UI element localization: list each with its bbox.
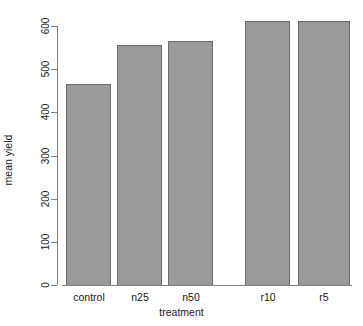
y-axis-tick-label-500: 500 xyxy=(40,54,52,84)
bar-chart-figure: 0 100 200 300 400 500 600 mean yield con… xyxy=(0,0,363,326)
y-axis-line xyxy=(57,26,58,285)
x-axis-line-segment-4 xyxy=(294,285,352,286)
y-axis-tick-label-600: 600 xyxy=(40,11,52,41)
bar-n50 xyxy=(168,41,213,286)
y-axis-tick-label-300: 300 xyxy=(40,141,52,171)
x-axis-tick-label-n25: n25 xyxy=(114,291,166,304)
bar-n25 xyxy=(117,45,162,286)
bar-control xyxy=(66,84,111,286)
y-axis-tick-label-0: 0 xyxy=(40,270,52,300)
bar-r5 xyxy=(298,21,350,286)
x-axis-tick-label-control: control xyxy=(58,291,120,304)
x-axis-tick-label-n50: n50 xyxy=(165,291,217,304)
y-axis-title: mean yield xyxy=(1,125,15,195)
x-axis-tick-label-r10: r10 xyxy=(242,291,294,304)
bar-r10 xyxy=(245,21,290,286)
x-axis-tick-label-r5: r5 xyxy=(298,291,350,304)
y-axis-tick-label-100: 100 xyxy=(40,227,52,257)
y-axis-title-text: mean yield xyxy=(2,125,14,195)
y-axis-tick-label-200: 200 xyxy=(40,184,52,214)
x-axis-line-segment-2 xyxy=(166,285,216,286)
x-axis-line-segment-3 xyxy=(216,285,294,286)
x-axis-line-segment-1 xyxy=(62,285,166,286)
x-axis-title: treatment xyxy=(0,306,363,319)
y-axis-tick-label-400: 400 xyxy=(40,97,52,127)
plot-area: 0 100 200 300 400 500 600 mean yield con… xyxy=(0,0,363,326)
